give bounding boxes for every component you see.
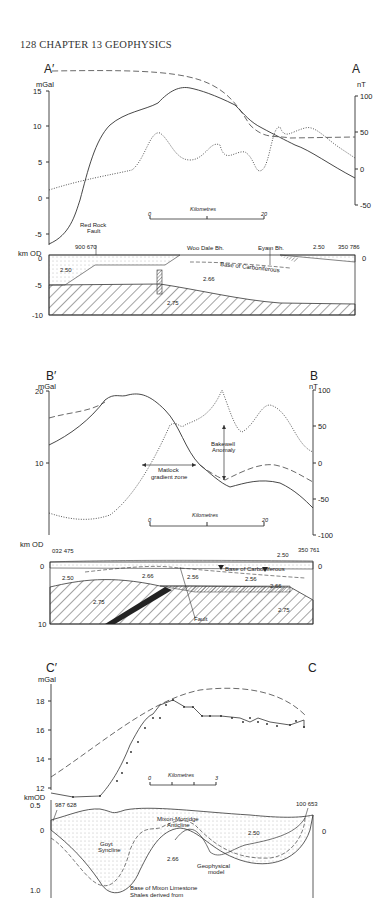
panel-a-left-label: A′ — [44, 62, 55, 76]
svg-text:C′: C′ — [46, 661, 58, 675]
svg-text:-5: -5 — [35, 281, 42, 290]
eyam-borehole-label: Eyam Bh. — [258, 245, 284, 251]
svg-text:B: B — [310, 369, 318, 383]
svg-text:50: 50 — [318, 422, 326, 431]
svg-text:2.56: 2.56 — [187, 574, 199, 580]
svg-text:2.75: 2.75 — [278, 607, 290, 613]
base-carboniferous-label-b: Base of Carboniferous — [225, 566, 285, 572]
svg-text:2.66: 2.66 — [142, 573, 154, 579]
svg-text:-5: -5 — [35, 230, 42, 239]
panel-a-magnetic-dotted — [49, 127, 355, 190]
svg-text:2.50: 2.50 — [248, 830, 260, 836]
svg-text:2.50: 2.50 — [277, 552, 289, 558]
svg-text:12: 12 — [36, 784, 44, 793]
svg-text:0: 0 — [40, 826, 44, 835]
svg-text:Fault: Fault — [87, 228, 101, 234]
svg-text:-10: -10 — [32, 311, 43, 320]
figure-canvas: A′ A mGal nT 15 10 5 0 -5 100 50 0 -50 K… — [0, 0, 378, 898]
svg-text:2.66: 2.66 — [203, 276, 215, 282]
panel-c-regional-dashed — [51, 688, 305, 777]
svg-text:Kilometres: Kilometres — [168, 772, 194, 778]
svg-text:0: 0 — [322, 827, 326, 836]
svg-text:0: 0 — [38, 254, 42, 263]
svg-text:-100: -100 — [318, 531, 333, 540]
svg-text:km OD: km OD — [20, 540, 44, 549]
svg-text:C: C — [308, 661, 317, 675]
svg-text:18: 18 — [36, 697, 44, 706]
svg-text:50: 50 — [360, 128, 368, 137]
svg-text:100 653: 100 653 — [296, 801, 318, 807]
svg-text:987 628: 987 628 — [55, 802, 77, 808]
svg-text:14: 14 — [36, 755, 44, 764]
svg-text:10: 10 — [38, 620, 46, 629]
svg-text:20: 20 — [35, 387, 43, 396]
panel-a-scale-label: Kilometres — [190, 206, 216, 212]
svg-text:2.66: 2.66 — [270, 583, 282, 589]
svg-text:2.56: 2.56 — [245, 576, 257, 582]
woo-dale-borehole-label: Woo Dale Bh. — [187, 245, 224, 251]
panel-c: C′ C mGal 18 16 14 12 Kilometres 0 3 kmO… — [24, 661, 326, 898]
svg-text:B′: B′ — [46, 369, 57, 383]
svg-text:350 786: 350 786 — [338, 244, 360, 250]
svg-text:0.5: 0.5 — [30, 801, 40, 810]
svg-text:model: model — [208, 869, 224, 875]
panel-a-left-ticks: 15 10 5 0 -5 — [33, 87, 49, 239]
svg-text:100: 100 — [318, 386, 331, 395]
svg-text:0: 0 — [318, 562, 322, 571]
svg-text:0: 0 — [38, 194, 42, 203]
panel-b: B′ B mGal nT 20 10 100 50 0 -50 -100 Mat… — [20, 369, 333, 629]
svg-text:3: 3 — [215, 775, 219, 781]
svg-text:Anticline: Anticline — [167, 822, 190, 828]
svg-text:1.0: 1.0 — [30, 886, 40, 895]
panel-a-regional-dashed — [52, 71, 355, 138]
svg-text:Kilometres: Kilometres — [192, 512, 218, 518]
svg-text:Anomaly: Anomaly — [212, 447, 235, 453]
svg-text:-50: -50 — [360, 201, 371, 210]
svg-text:0: 0 — [360, 165, 364, 174]
panel-b-bouguer-solid — [49, 394, 313, 508]
svg-text:2.75: 2.75 — [167, 300, 179, 306]
svg-text:10: 10 — [33, 122, 41, 131]
svg-text:2.66: 2.66 — [167, 856, 179, 862]
fault-label: Fault — [194, 616, 208, 622]
svg-text:16: 16 — [36, 726, 44, 735]
svg-text:2.50: 2.50 — [60, 267, 72, 273]
svg-text:2.75: 2.75 — [93, 599, 105, 605]
svg-text:gradient zone: gradient zone — [151, 474, 188, 480]
svg-text:0: 0 — [148, 775, 152, 781]
svg-text:10: 10 — [35, 459, 43, 468]
svg-text:-50: -50 — [318, 495, 329, 504]
panel-c-observed-dotted — [51, 700, 304, 797]
svg-text:900 670: 900 670 — [75, 244, 97, 250]
svg-text:0: 0 — [40, 562, 44, 571]
svg-text:5: 5 — [38, 158, 42, 167]
panel-a-right-label: A — [352, 62, 360, 76]
base-mixon-label: Base of Mixon Limestone — [130, 885, 198, 891]
panel-a: A′ A mGal nT 15 10 5 0 -5 100 50 0 -50 K… — [18, 62, 373, 320]
svg-text:2.50: 2.50 — [62, 575, 74, 581]
svg-text:Shales derived from: Shales derived from — [130, 892, 183, 898]
svg-text:032 475: 032 475 — [52, 548, 74, 554]
svg-text:15: 15 — [33, 87, 41, 96]
svg-text:Syncline: Syncline — [98, 847, 121, 853]
matlock-label: Matlock — [158, 467, 180, 473]
svg-text:0: 0 — [318, 459, 322, 468]
svg-text:mGal: mGal — [38, 675, 56, 684]
panel-a-right-unit: nT — [357, 80, 366, 89]
svg-text:100: 100 — [360, 92, 373, 101]
panel-a-right-ticks: 100 50 0 -50 — [355, 92, 373, 210]
base-carboniferous-label: Base of Carboniferous — [220, 261, 280, 273]
svg-text:350 761: 350 761 — [298, 547, 320, 553]
svg-text:2.50: 2.50 — [313, 244, 325, 250]
svg-text:20: 20 — [261, 517, 269, 523]
panel-a-bouguer-solid — [49, 88, 355, 244]
svg-text:0: 0 — [362, 254, 366, 263]
